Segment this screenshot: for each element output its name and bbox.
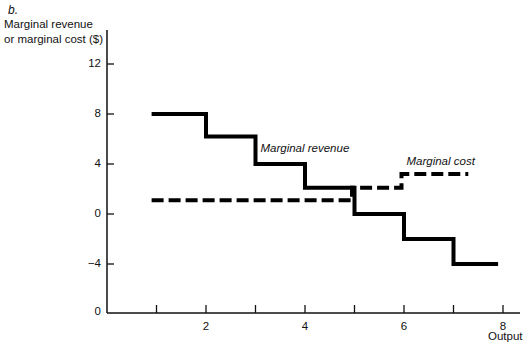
x-tick-label: 6 (394, 320, 414, 332)
y-tick-label: 12 (71, 57, 101, 69)
y-tick-label: −4 (71, 257, 101, 269)
marginal-cost-annotation: Marginal cost (406, 155, 474, 167)
y-tick-label: 0 (71, 207, 101, 219)
marginal-revenue-annotation: Marginal revenue (260, 142, 349, 154)
y-axis-label-line-2: or marginal cost ($) (4, 32, 103, 47)
y-tick-label: 4 (71, 157, 101, 169)
axes (107, 30, 520, 313)
x-tick-label: 8 (493, 320, 513, 332)
step-chart (0, 0, 524, 349)
panel-label: b. (8, 3, 18, 17)
y-axis-label-line-1: Marginal revenue (4, 17, 103, 32)
origin-label: 0 (71, 305, 101, 317)
marginal-revenue-line (152, 114, 499, 264)
x-tick-label: 2 (196, 320, 216, 332)
series-layer (152, 114, 499, 264)
y-axis-label: Marginal revenue or marginal cost ($) (4, 17, 103, 47)
x-tick-label: 4 (295, 320, 315, 332)
y-tick-label: 8 (71, 107, 101, 119)
